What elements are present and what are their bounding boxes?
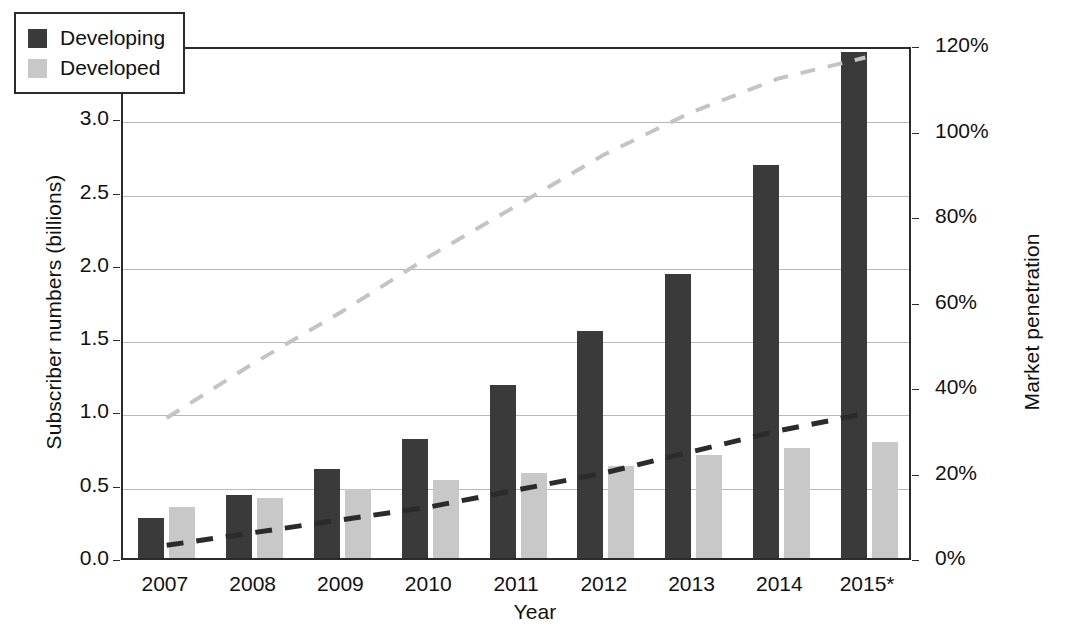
- y-axis-right-title: Market penetration: [1020, 82, 1044, 562]
- x-axis-tick-label: 2014: [735, 572, 823, 596]
- y-axis-right-tick-label: 120%: [935, 33, 1025, 57]
- legend-item-developing: Developing: [28, 23, 165, 53]
- legend-item-developed: Developed: [28, 53, 165, 83]
- bar-developing-2013: [665, 274, 691, 558]
- y-axis-right-tick-mark: [912, 389, 919, 390]
- gridline: [123, 122, 909, 123]
- bar-developed-2011: [521, 473, 547, 558]
- x-axis-tick-label: 2007: [121, 572, 209, 596]
- y-axis-right-tick-label: 0%: [935, 546, 1025, 570]
- gridline: [123, 342, 909, 343]
- bar-developing-2014: [753, 165, 779, 558]
- chart-legend: DevelopingDeveloped: [14, 12, 185, 94]
- y-axis-left-tick-mark: [113, 560, 120, 561]
- y-axis-left-tick-label: 3.0: [29, 106, 109, 130]
- x-axis-tick-label: 2008: [209, 572, 297, 596]
- gridline: [123, 196, 909, 197]
- bar-developing-2008: [226, 495, 252, 558]
- y-axis-left-tick-label: 0.0: [29, 546, 109, 570]
- y-axis-left-tick-mark: [113, 413, 120, 414]
- x-axis-tick-label: 2009: [297, 572, 385, 596]
- bar-developed-2009: [345, 489, 371, 558]
- bar-developing-2007: [138, 518, 164, 558]
- y-axis-right-tick-label: 100%: [935, 119, 1025, 143]
- bar-developed-2015: [872, 442, 898, 558]
- x-axis-tick-label: 2011: [472, 572, 560, 596]
- y-axis-right-tick-mark: [912, 218, 919, 219]
- plot-area: [121, 47, 911, 560]
- bar-developed-2008: [257, 498, 283, 558]
- bar-developed-2012: [608, 466, 634, 558]
- bar-developing-2012: [577, 331, 603, 558]
- bar-developing-2011: [490, 385, 516, 558]
- legend-swatch-icon: [28, 59, 47, 78]
- legend-swatch-icon: [28, 29, 47, 48]
- y-axis-right-tick-label: 80%: [935, 204, 1025, 228]
- bar-developed-2007: [169, 507, 195, 558]
- bar-developing-2010: [402, 439, 428, 558]
- y-axis-left-tick-mark: [113, 487, 120, 488]
- x-axis-title: Year: [0, 600, 1070, 624]
- x-axis-tick-label: 2012: [560, 572, 648, 596]
- gridline: [123, 415, 909, 416]
- y-axis-right-tick-label: 60%: [935, 290, 1025, 314]
- y-axis-right-tick-mark: [912, 560, 919, 561]
- gridline: [123, 269, 909, 270]
- bar-developed-2010: [433, 480, 459, 558]
- y-axis-left-tick-label: 2.5: [29, 180, 109, 204]
- legend-label: Developed: [60, 56, 160, 80]
- bar-developed-2013: [696, 455, 722, 558]
- y-axis-right-tick-mark: [912, 133, 919, 134]
- bar-developing-2015: [841, 52, 867, 558]
- y-axis-left-tick-label: 2.0: [29, 253, 109, 277]
- x-axis-tick-label: 2010: [384, 572, 472, 596]
- y-axis-left-tick-mark: [113, 267, 120, 268]
- y-axis-left-tick-label: 1.5: [29, 326, 109, 350]
- y-axis-right-tick-mark: [912, 47, 919, 48]
- y-axis-right-tick-label: 40%: [935, 375, 1025, 399]
- bar-developed-2014: [784, 448, 810, 558]
- y-axis-left-tick-label: 1.0: [29, 399, 109, 423]
- y-axis-left-tick-mark: [113, 120, 120, 121]
- chart-container: Subscriber numbers (billions) Market pen…: [0, 0, 1070, 644]
- x-axis-tick-label: 2015*: [823, 572, 911, 596]
- y-axis-left-tick-mark: [113, 340, 120, 341]
- x-axis-tick-label: 2013: [648, 572, 736, 596]
- y-axis-right-tick-label: 20%: [935, 461, 1025, 485]
- y-axis-left-tick-label: 0.5: [29, 473, 109, 497]
- y-axis-right-tick-mark: [912, 304, 919, 305]
- y-axis-right-tick-mark: [912, 475, 919, 476]
- y-axis-left-tick-mark: [113, 194, 120, 195]
- bar-developing-2009: [314, 469, 340, 558]
- legend-label: Developing: [60, 26, 165, 50]
